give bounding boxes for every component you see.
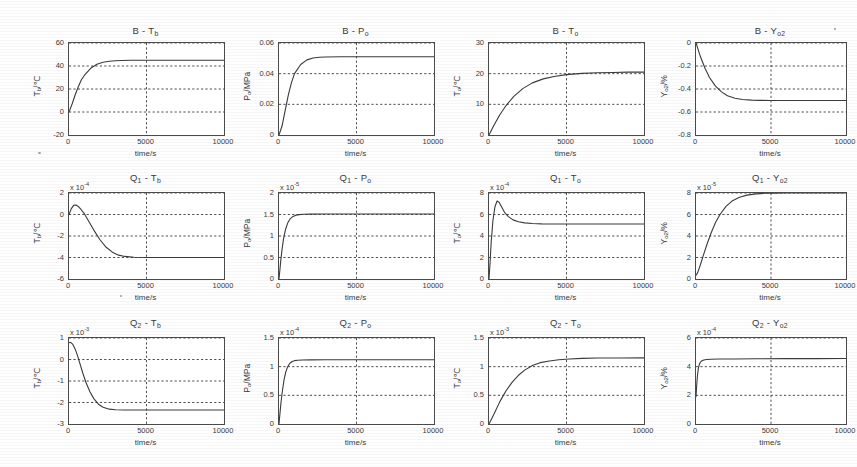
axes-q2-yo2 <box>695 337 847 425</box>
plot-panel-q1-yo2: Q1 - Yo2x 10-5024680500010000Yo2/%time/s <box>635 172 855 308</box>
plot-panel-q2-yo2: Q2 - Yo2x 10-402460500010000Yo2/%time/s <box>635 317 855 453</box>
xtick-label: 5000 <box>762 281 779 290</box>
ytick-label: 0.06 <box>228 38 274 47</box>
panel-title-q2-tb: Q2 - Tb <box>68 317 223 329</box>
data-curve-b-to <box>489 72 644 135</box>
plot-graphics-b-to <box>489 43 644 135</box>
axis-exponent-q2-po: x 10-4 <box>280 326 299 337</box>
xlabel-q2-tb: time/s <box>68 438 223 447</box>
ytick-label: -6 <box>18 274 64 283</box>
axis-exponent-q1-tb: x 10-4 <box>70 181 89 192</box>
xtick-label: 5000 <box>557 137 574 146</box>
ylabel-b-yo2: Yo2/% <box>659 51 670 121</box>
axes-q2-to <box>488 337 645 425</box>
panel-title-q1-to: Q1 - To <box>488 172 643 184</box>
ytick-label: 0 <box>645 38 691 47</box>
axis-exponent-q1-yo2: x 10-5 <box>697 181 716 192</box>
axes-q2-po <box>278 337 435 425</box>
ytick-label: 8 <box>645 188 691 197</box>
ylabel-b-tb: Tb/℃ <box>32 51 43 121</box>
axes-b-po <box>278 42 435 136</box>
xtick-label: 0 <box>66 137 70 146</box>
xlabel-b-yo2: time/s <box>695 149 845 158</box>
xlabel-q1-to: time/s <box>488 293 643 302</box>
ytick-label: 0 <box>228 130 274 139</box>
axis-exponent-q1-po: x 10-5 <box>280 181 299 192</box>
plot-panel-b-yo2: B - Yo2-0.8-0.6-0.4-0.200500010000Yo2/%t… <box>635 25 855 167</box>
ylabel-q2-tb: Tb/℃ <box>32 343 43 413</box>
panel-title-b-yo2: B - Yo2 <box>695 25 845 37</box>
plot-panel-b-po: B - Po00.020.040.060500010000Po/MPatime/… <box>218 25 443 167</box>
plot-graphics-q1-po <box>279 193 434 279</box>
ylabel-q2-yo2: Yo2/% <box>659 343 670 413</box>
plot-graphics-q2-po <box>279 338 434 424</box>
ylabel-q1-tb: Tb/℃ <box>32 198 43 268</box>
xtick-label: 0 <box>276 137 280 146</box>
axis-exponent-q1-to: x 10-4 <box>490 181 509 192</box>
ytick-label: 30 <box>438 38 484 47</box>
panel-title-q2-to: Q2 - To <box>488 317 643 329</box>
xlabel-q2-po: time/s <box>278 438 433 447</box>
xtick-label: 0 <box>486 281 490 290</box>
ytick-label: 0 <box>645 274 691 283</box>
xtick-label: 0 <box>486 426 490 435</box>
ytick-label: -3 <box>18 419 64 428</box>
axes-b-tb <box>68 42 225 136</box>
plot-panel-q1-tb: Q1 - Tbx 10-4-6-4-2020500010000Tb/℃time/… <box>8 172 233 308</box>
panel-title-b-po: B - Po <box>278 25 433 37</box>
panel-title-q1-yo2: Q1 - Yo2 <box>695 172 845 184</box>
xtick-label: 5000 <box>347 137 364 146</box>
xlabel-b-to: time/s <box>488 149 643 158</box>
xtick-label: 5000 <box>137 426 154 435</box>
xtick-label: 5000 <box>137 137 154 146</box>
plot-graphics-q1-to <box>489 193 644 279</box>
xtick-label: 0 <box>693 137 697 146</box>
xtick-label: 0 <box>66 281 70 290</box>
ylabel-b-po: Po/MPa <box>242 51 253 121</box>
plot-graphics-q2-to <box>489 338 644 424</box>
ytick-label: 0 <box>228 274 274 283</box>
ytick-label: 1.5 <box>438 333 484 342</box>
panel-title-q1-tb: Q1 - Tb <box>68 172 223 184</box>
xlabel-q2-to: time/s <box>488 438 643 447</box>
xtick-label: 5000 <box>137 281 154 290</box>
xlabel-q1-tb: time/s <box>68 293 223 302</box>
data-curve-q1-tb <box>69 205 224 257</box>
ylabel-q2-to: To/℃ <box>452 343 463 413</box>
xtick-label: 0 <box>693 426 697 435</box>
xlabel-q1-po: time/s <box>278 293 433 302</box>
plot-panel-q2-tb: Q2 - Tbx 10-3-3-2-1010500010000Tb/℃time/… <box>8 317 233 453</box>
ylabel-b-to: To/℃ <box>452 51 463 121</box>
plot-graphics-q1-tb <box>69 193 224 279</box>
plot-panel-q1-to: Q1 - Tox 10-4024680500010000To/℃time/s <box>428 172 653 308</box>
axis-exponent-q2-to: x 10-3 <box>490 326 509 337</box>
ylabel-q1-po: Po/MPa <box>242 198 253 268</box>
xtick-label: 0 <box>486 137 490 146</box>
ylabel-q2-po: Po/MPa <box>242 343 253 413</box>
ytick-label: 0 <box>228 419 274 428</box>
ytick-label: 0 <box>645 419 691 428</box>
plot-graphics-q2-yo2 <box>696 338 846 424</box>
figure-canvas: B - Tb-2002040600500010000Tb/℃time/sB - … <box>0 0 857 467</box>
plot-graphics-b-tb <box>69 43 224 135</box>
xtick-label: 5000 <box>557 426 574 435</box>
axes-q1-po <box>278 192 435 280</box>
plot-panel-q1-po: Q1 - Pox 10-500.511.520500010000Po/MPati… <box>218 172 443 308</box>
plot-panel-b-tb: B - Tb-2002040600500010000Tb/℃time/s <box>8 25 233 167</box>
ytick-label: 6 <box>645 333 691 342</box>
xtick-label: 0 <box>66 426 70 435</box>
xtick-label: 0 <box>693 281 697 290</box>
xlabel-q2-yo2: time/s <box>695 438 845 447</box>
ytick-label: 2 <box>18 188 64 197</box>
panel-title-q2-yo2: Q2 - Yo2 <box>695 317 845 329</box>
axes-b-yo2 <box>695 42 847 136</box>
plot-graphics-q2-tb <box>69 338 224 424</box>
xlabel-b-po: time/s <box>278 149 433 158</box>
panel-title-q2-po: Q2 - Po <box>278 317 433 329</box>
ylabel-q1-yo2: Yo2/% <box>659 198 670 268</box>
panel-title-b-tb: B - Tb <box>68 25 223 37</box>
ytick-label: -0.8 <box>645 130 691 139</box>
xlabel-q1-yo2: time/s <box>695 293 845 302</box>
xtick-label: 5000 <box>762 137 779 146</box>
data-curve-b-tb <box>69 60 224 112</box>
